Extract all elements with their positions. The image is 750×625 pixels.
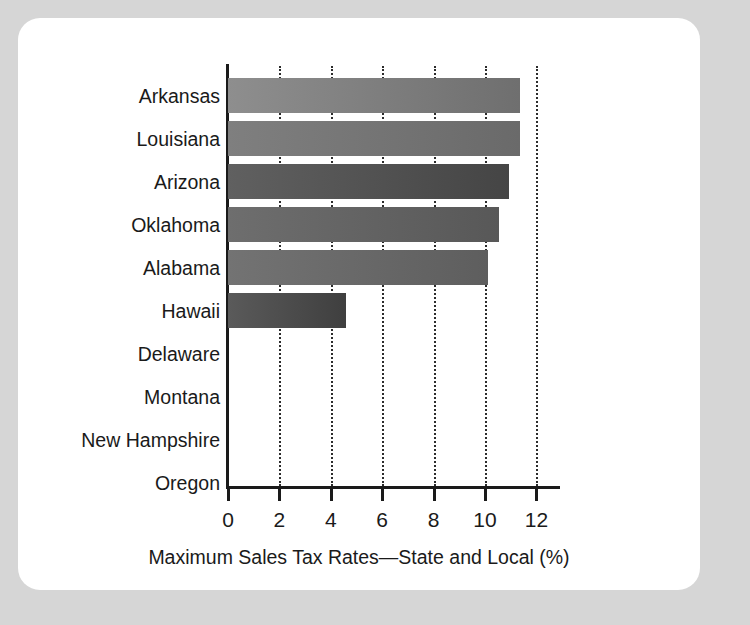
x-tick [330, 489, 333, 501]
x-axis-line [226, 486, 560, 489]
x-tick [433, 489, 436, 501]
bar [228, 164, 509, 199]
bar-fill [228, 164, 509, 199]
category-label: Oregon [0, 472, 220, 494]
x-tick-label: 2 [259, 507, 299, 533]
bar-fill [228, 207, 499, 242]
x-tick [278, 489, 281, 501]
x-tick-label: 4 [311, 507, 351, 533]
bar [228, 207, 499, 242]
x-tick [227, 489, 230, 501]
category-axis-labels: ArkansasLouisianaArizonaOklahomaAlabamaH… [0, 66, 220, 486]
category-label: Delaware [0, 343, 220, 365]
category-label: Montana [0, 386, 220, 408]
x-tick-label: 0 [208, 507, 248, 533]
x-tick-label: 10 [465, 507, 505, 533]
x-tick [484, 489, 487, 501]
bar-fill [228, 121, 520, 156]
gridline [536, 66, 538, 486]
x-axis-title: Maximum Sales Tax Rates—State and Local … [18, 546, 700, 569]
bar-fill [228, 78, 520, 113]
category-label: Arkansas [0, 85, 220, 107]
figure-card: ArkansasLouisianaArizonaOklahomaAlabamaH… [18, 18, 700, 590]
category-label: Hawaii [0, 300, 220, 322]
category-label: Louisiana [0, 128, 220, 150]
x-tick-label: 6 [362, 507, 402, 533]
category-label: Arizona [0, 171, 220, 193]
category-label: Alabama [0, 257, 220, 279]
x-tick [535, 489, 538, 501]
bar-fill [228, 293, 346, 328]
bar [228, 293, 346, 328]
category-label: New Hampshire [0, 429, 220, 451]
bar [228, 121, 520, 156]
x-tick-label: 12 [516, 507, 556, 533]
x-tick-label: 8 [414, 507, 454, 533]
plot-area: ArkansasLouisianaArizonaOklahomaAlabamaH… [228, 66, 558, 486]
category-label: Oklahoma [0, 214, 220, 236]
x-tick [381, 489, 384, 501]
bar [228, 78, 520, 113]
bar-fill [228, 250, 488, 285]
bar [228, 250, 488, 285]
